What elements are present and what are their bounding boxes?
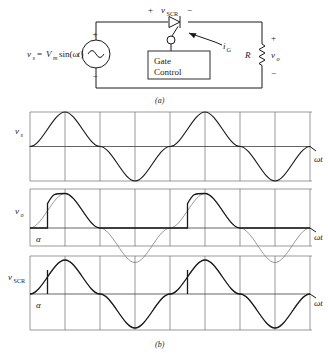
output-plus-sign: + <box>271 33 276 43</box>
gate-current-subscript: G <box>227 46 232 53</box>
figure-controlled-half-wave-rectifier: + − v s = V m sin( ω t ) + <box>0 0 328 353</box>
scr-thyristor-symbol <box>167 16 180 51</box>
ac-source-symbol <box>82 40 110 68</box>
equals-sign: = <box>37 49 42 59</box>
source-minus-sign: − <box>93 71 98 81</box>
source-plus-sign: + <box>93 29 98 39</box>
output-minus-sign: − <box>271 68 276 78</box>
output-v-subscript: o <box>277 55 280 62</box>
plot2-alpha-label: α <box>36 234 41 244</box>
plot3-alpha-label: α <box>36 300 41 310</box>
resistor-label: R <box>244 50 251 60</box>
scr-voltage-annotation: + v SCR − <box>148 5 192 17</box>
sin-open: sin( <box>59 49 73 59</box>
vm-label: V <box>46 49 53 59</box>
plot2-axis-label: ωt <box>314 232 323 242</box>
plot-scr-voltage: v SCR α ωt <box>8 256 323 330</box>
output-v-label: v <box>271 50 275 60</box>
vm-subscript: m <box>53 54 58 61</box>
plot-source-voltage: v s ωt <box>15 112 323 181</box>
source-v-label: v <box>27 49 31 59</box>
plot3-label: v <box>8 272 12 282</box>
plot2-label: v <box>15 206 19 216</box>
scr-plus-sign: + <box>148 5 153 15</box>
panel-a-caption: (a) <box>155 96 165 105</box>
scr-v-label: v <box>161 5 165 15</box>
source-equation: v s = V m sin( ω t ) <box>27 49 84 61</box>
plot2-label-subscript: o <box>21 211 24 218</box>
plot1-axis-label: ωt <box>314 154 323 164</box>
source-v-subscript: s <box>33 54 36 61</box>
waveform-panel: v s ωt <box>8 112 323 349</box>
plot1-label: v <box>15 126 19 136</box>
sin-close: ) <box>81 49 84 59</box>
scr-v-subscript: SCR <box>167 10 180 17</box>
plot1-label-subscript: s <box>21 131 24 138</box>
circuit-diagram: + − v s = V m sin( ω t ) + <box>27 5 280 105</box>
scr-minus-sign: − <box>187 5 192 15</box>
plot3-label-subscript: SCR <box>14 277 27 284</box>
plot-output-voltage: v o α ωt <box>15 189 323 263</box>
panel-b-caption: (b) <box>155 340 165 349</box>
gate-control-box: Gate Control <box>148 51 210 79</box>
plot3-axis-label: ωt <box>314 298 323 308</box>
gate-control-line2: Control <box>154 67 182 77</box>
gate-control-line1: Gate <box>154 56 171 66</box>
gate-current-arrow: i G <box>189 33 232 53</box>
plot3-grid <box>30 256 312 330</box>
plot1-axis-arrow <box>310 147 316 152</box>
